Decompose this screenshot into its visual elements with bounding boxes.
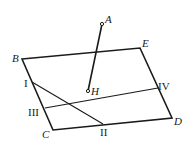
- label-e: E: [141, 37, 149, 49]
- label-iv: IV: [158, 80, 170, 92]
- diagram-canvas: A B E D C H I II III IV: [0, 0, 190, 150]
- segment-iii-iv: [45, 88, 158, 108]
- label-i: I: [24, 77, 28, 89]
- label-ii: II: [100, 126, 108, 138]
- label-c: C: [42, 128, 50, 140]
- label-h: H: [90, 85, 100, 97]
- label-b: B: [12, 52, 19, 64]
- label-a: A: [104, 13, 112, 25]
- label-d: D: [173, 115, 182, 127]
- label-iii: III: [28, 106, 39, 118]
- segment-a-h: [88, 24, 102, 91]
- point-a-dot: [100, 22, 103, 25]
- point-h-dot: [86, 89, 89, 92]
